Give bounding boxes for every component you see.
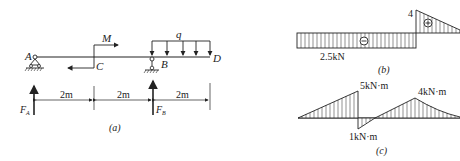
- moment-min-value: 1kN·m: [349, 131, 378, 142]
- reaction-FB-label: FB: [155, 104, 166, 116]
- caption-c: (c): [376, 145, 388, 157]
- load-q-label: q: [176, 28, 182, 40]
- point-C-label: C: [96, 60, 104, 72]
- beam-diagram-canvas: A M C B q D FA: [0, 0, 460, 161]
- distributed-load-icon: [152, 41, 210, 55]
- negative-shear-region: [297, 33, 416, 48]
- dimension-CB: 2m: [117, 89, 130, 100]
- point-D-label: D: [212, 52, 221, 64]
- point-B-label: B: [161, 58, 168, 70]
- moment-M-label: M: [101, 32, 112, 44]
- shear-positive-value: 4: [408, 8, 413, 19]
- shear-negative-value: 2.5kN: [320, 51, 345, 62]
- beam-figure-a: A M C B q D FA: [19, 28, 221, 134]
- dimension-BD: 2m: [176, 89, 189, 100]
- moment-peak-2: 4kN·m: [418, 86, 447, 97]
- dimension-AC: 2m: [60, 89, 73, 100]
- caption-b: (b): [378, 64, 390, 76]
- caption-a: (a): [109, 122, 121, 134]
- reaction-FA-label: FA: [19, 104, 30, 116]
- moment-diagram-c: 5kN·m 1kN·m 4kN·m (c): [298, 80, 460, 157]
- moment-peak-1: 5kN·m: [360, 80, 389, 91]
- roller-support-B-icon: [144, 57, 159, 73]
- moment-region-negative: [358, 118, 375, 129]
- point-A-label: A: [24, 50, 32, 62]
- moment-region-1: [298, 91, 358, 118]
- shear-diagram-b: 4 2.5kN (b): [297, 8, 460, 76]
- positive-shear-region: [416, 10, 460, 33]
